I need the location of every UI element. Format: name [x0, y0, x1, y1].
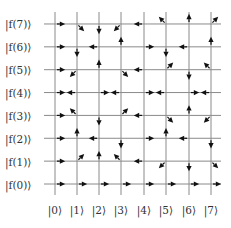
- phase-arrow-icon: [78, 154, 84, 160]
- phase-arrow-icon: [186, 14, 191, 22]
- phase-arrow-icon: [57, 90, 65, 95]
- phase-arrow-icon: [167, 117, 173, 123]
- col-label-5: |5⟩: [159, 204, 173, 218]
- phase-arrow-icon: [146, 181, 154, 186]
- phase-arrow-icon: [156, 90, 164, 95]
- phase-arrow-icon: [167, 62, 173, 68]
- phase-arrow-icon: [159, 163, 165, 169]
- phase-arrow-icon: [114, 154, 120, 160]
- phase-arrow-icon: [208, 140, 213, 148]
- phase-arrow-icon: [111, 90, 119, 95]
- phase-arrow-icon: [213, 181, 221, 186]
- phase-arrow-icon: [57, 67, 65, 72]
- phase-arrow-icon: [74, 128, 79, 136]
- phase-arrow-icon: [179, 136, 187, 141]
- phase-arrow-icon: [57, 113, 65, 118]
- phase-arrow-icon: [134, 21, 142, 26]
- row-labels: |f(7)⟩ |f(6)⟩ |f(5)⟩ |f(4)⟩ |f(3)⟩ |f(2)…: [5, 18, 31, 193]
- phase-arrow-icon: [186, 72, 191, 80]
- col-label-7: |7⟩: [204, 204, 218, 218]
- col-label-4: |4⟩: [137, 204, 151, 218]
- col-label-0: |0⟩: [48, 204, 62, 218]
- phase-arrow-icon: [186, 105, 191, 113]
- phase-arrow-icon: [122, 108, 128, 114]
- phase-arrow-icon: [159, 17, 165, 23]
- row-label-f4: |f(4)⟩: [5, 87, 31, 101]
- row-label-f0: |f(0)⟩: [5, 179, 31, 193]
- column-labels: |0⟩ |1⟩ |2⟩ |3⟩ |4⟩ |5⟩ |6⟩ |7⟩: [48, 204, 218, 218]
- phase-arrow-icon: [204, 117, 210, 123]
- phase-arrow-icon: [114, 25, 120, 31]
- phase-arrow-icon: [101, 90, 109, 95]
- phase-arrow-icon: [96, 26, 101, 34]
- phase-arrow-icon: [134, 67, 142, 72]
- phase-arrow-icon: [101, 181, 109, 186]
- col-label-1: |1⟩: [70, 204, 84, 218]
- col-label-2: |2⟩: [92, 204, 106, 218]
- phase-arrow-icon: [70, 108, 76, 114]
- phase-arrow-icon: [122, 71, 128, 77]
- phase-arrow-icon: [118, 37, 123, 45]
- col-label-3: |3⟩: [114, 204, 128, 218]
- phase-arrow-icon: [79, 181, 87, 186]
- row-label-f3: |f(3)⟩: [5, 110, 31, 124]
- phase-arrow-icon: [96, 151, 101, 159]
- phase-arrow-icon: [96, 117, 101, 125]
- phase-arrow-icon: [96, 60, 101, 68]
- phase-arrow-icon: [57, 136, 65, 141]
- phase-arrow-icon: [191, 181, 199, 186]
- row-label-f1: |f(1)⟩: [5, 156, 31, 170]
- phase-grid-diagram: |f(7)⟩ |f(6)⟩ |f(5)⟩ |f(4)⟩ |f(3)⟩ |f(2)…: [0, 0, 231, 228]
- phase-arrow-icon: [146, 90, 154, 95]
- phase-arrow-icon: [168, 181, 176, 186]
- phase-arrow-icon: [204, 62, 210, 68]
- phase-arrow-icon: [134, 159, 142, 164]
- grid-lines: [44, 12, 221, 195]
- phase-arrow-icon: [201, 90, 209, 95]
- phase-arrow-icon: [208, 37, 213, 45]
- phase-arrow-icon: [191, 90, 199, 95]
- phase-arrow-icon: [70, 71, 76, 77]
- phase-arrow-icon: [67, 90, 75, 95]
- phase-arrow-icon: [163, 128, 168, 136]
- phase-arrow-icon: [89, 136, 97, 141]
- phase-arrow-icon: [57, 44, 65, 49]
- row-label-f5: |f(5)⟩: [5, 64, 31, 78]
- phase-arrow-icon: [134, 113, 142, 118]
- phase-arrow-icon: [186, 163, 191, 171]
- phase-arrow-icon: [146, 136, 154, 141]
- phase-arrow-icon: [212, 163, 218, 169]
- phase-arrow-icon: [57, 159, 65, 164]
- col-label-6: |6⟩: [182, 204, 196, 218]
- row-label-f7: |f(7)⟩: [5, 18, 31, 32]
- phase-arrow-icon: [146, 44, 154, 49]
- phase-arrow-icon: [163, 49, 168, 57]
- phase-arrow-icon: [123, 181, 131, 186]
- phase-arrow-icon: [212, 17, 218, 23]
- phase-arrow-icon: [57, 21, 65, 26]
- phase-arrow-icon: [57, 181, 65, 186]
- phase-arrow-icon: [118, 140, 123, 148]
- row-label-f6: |f(6)⟩: [5, 41, 31, 55]
- phase-arrow-icon: [89, 44, 97, 49]
- row-label-f2: |f(2)⟩: [5, 133, 31, 147]
- phase-arrow-icon: [179, 44, 187, 49]
- phase-arrow-icon: [74, 49, 79, 57]
- phase-arrow-icon: [78, 25, 84, 31]
